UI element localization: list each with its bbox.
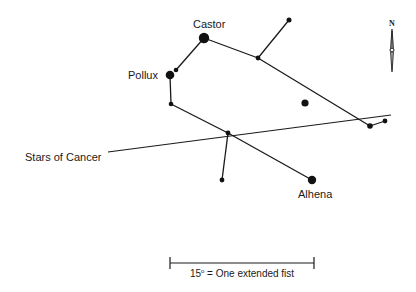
- star-isolated: [301, 99, 308, 106]
- scale-text: = One extended fist: [204, 268, 294, 279]
- star-right-end: [383, 119, 388, 124]
- line-mid-top: [258, 20, 289, 58]
- label-alhena: Alhena: [298, 188, 333, 200]
- stars: [166, 18, 388, 185]
- compass-north-arrow: N: [389, 19, 395, 72]
- star-junction: [226, 131, 231, 136]
- line-junction-bottom: [222, 133, 228, 180]
- star-mid: [256, 56, 261, 61]
- line-mid-right: [258, 58, 370, 126]
- star-top: [287, 18, 292, 23]
- star-pollux: [166, 71, 175, 80]
- line-castor-pollux: [176, 38, 204, 70]
- label-castor: Castor: [193, 18, 226, 30]
- star-castor: [199, 33, 209, 43]
- label-cancer: Stars of Cancer: [25, 151, 102, 163]
- line-down-junction: [171, 104, 228, 133]
- star-right: [367, 123, 373, 129]
- label-pollux: Pollux: [128, 69, 158, 81]
- scale-degrees: 15: [190, 268, 202, 279]
- star-below-pollux: [169, 102, 174, 107]
- scale-bar-label: 15o = One extended fist: [190, 268, 294, 279]
- compass-center-icon: [390, 48, 394, 52]
- star-bottom: [220, 178, 225, 183]
- line-junction-alhena: [228, 133, 312, 180]
- cancer-pointer-line: [108, 115, 391, 152]
- star-small-near-pollux: [174, 68, 179, 73]
- star-chart: Castor Pollux Alhena Stars of Cancer N 1…: [0, 0, 416, 292]
- star-alhena: [308, 176, 316, 184]
- compass-n-label: N: [389, 19, 395, 28]
- line-castor-mid: [204, 38, 258, 58]
- line-pollux-down: [170, 75, 171, 104]
- constellation-lines: [170, 20, 385, 180]
